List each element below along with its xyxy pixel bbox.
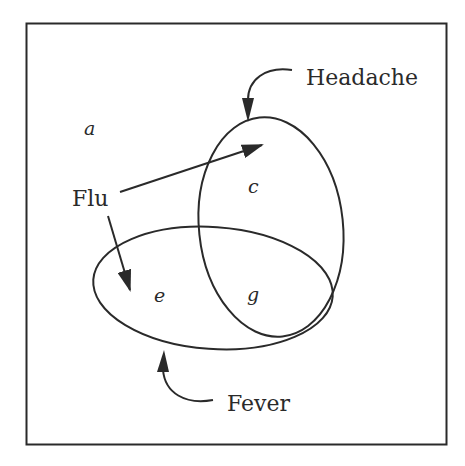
fever-arrowhead-icon: [157, 350, 169, 372]
region-c-label: c: [248, 175, 259, 197]
fever-set-ellipse: [89, 219, 337, 357]
headache-label: Headache: [306, 65, 418, 90]
region-g-label: g: [247, 283, 259, 305]
flu-arrow-to-fever: [108, 216, 130, 290]
fever-label: Fever: [227, 391, 291, 416]
flu-label: Flu: [72, 186, 108, 211]
region-a-label: a: [84, 117, 95, 139]
headache-pointer-arrow: [248, 69, 292, 100]
fever-pointer-arrow: [163, 370, 213, 401]
flu-arrow-to-headache: [120, 145, 262, 192]
venn-diagram: Headache Fever Flu a c e g: [0, 0, 465, 466]
region-e-label: e: [154, 284, 165, 306]
